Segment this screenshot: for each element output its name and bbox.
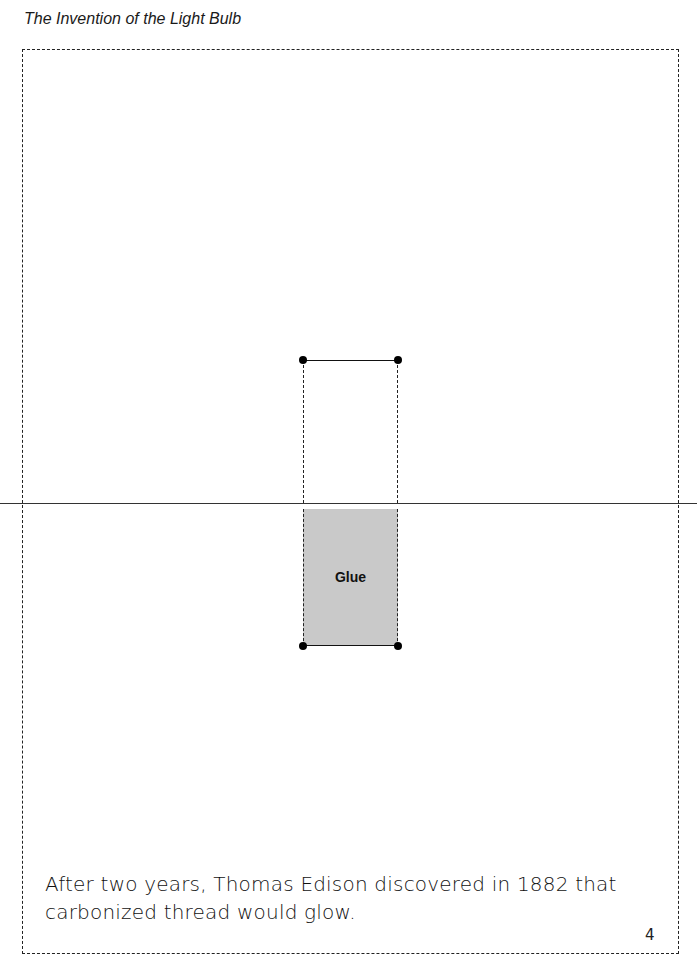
corner-dot-bottom-right [394,642,402,650]
pull-tab-outline [303,360,398,503]
corner-dot-top-left [299,356,307,364]
corner-dot-bottom-left [299,642,307,650]
page-number: 4 [645,926,655,944]
fold-line [0,503,697,504]
glue-label: Glue [335,569,366,585]
glue-area: Glue [303,509,398,646]
corner-dot-top-right [394,356,402,364]
caption-text: After two years, Thomas Edison discovere… [45,870,625,926]
page-title: The Invention of the Light Bulb [24,10,241,28]
